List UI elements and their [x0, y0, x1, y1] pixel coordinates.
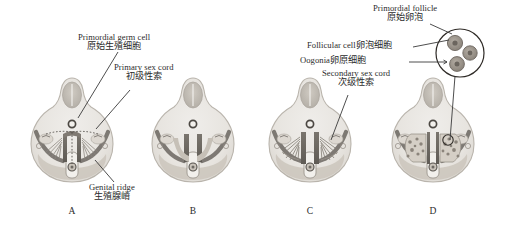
panel-letter-b: B: [190, 206, 196, 216]
gonad-development-figure: A B: [0, 0, 525, 234]
panel-d-ovary-left: [405, 134, 426, 162]
panel-c: [269, 78, 351, 182]
leader-primordial-follicle: [430, 24, 452, 34]
panel-letter-a: A: [69, 206, 76, 216]
panel-d: [392, 78, 474, 182]
panel-letter-d: D: [430, 206, 437, 216]
primordial-follicle-inset: [436, 29, 484, 77]
leader-primordial-germ-cell: [78, 52, 118, 118]
panel-b: [152, 78, 234, 182]
leader-primary-sex-cord: [96, 90, 130, 129]
panel-letter-c: C: [307, 206, 313, 216]
